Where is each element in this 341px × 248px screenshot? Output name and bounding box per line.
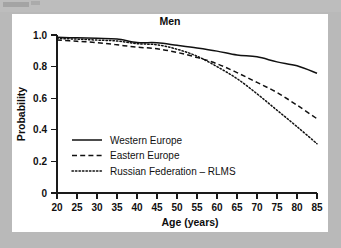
- legend-label: Eastern Europe: [110, 150, 180, 161]
- line-chart: Men 00.20.40.60.81.0 Probability 2025303…: [12, 14, 328, 232]
- x-tick-label: 30: [91, 202, 103, 213]
- x-tick-label: 55: [191, 202, 203, 213]
- x-tick-label: 80: [291, 202, 303, 213]
- x-tick-labels: 2025303540455055606570758085: [51, 202, 323, 213]
- x-axis: 2025303540455055606570758085 Age (years): [51, 193, 323, 228]
- x-tick-label: 20: [51, 202, 63, 213]
- chart-panel: Men 00.20.40.60.81.0 Probability 2025303…: [12, 14, 328, 232]
- y-tick-label: 0: [41, 188, 47, 199]
- x-axis-title: Age (years): [161, 216, 218, 228]
- data-series-group: [57, 37, 317, 143]
- legend-label: Russian Federation – RLMS: [110, 166, 236, 177]
- scan-speck: [31, 1, 40, 5]
- x-tick-label: 70: [251, 202, 263, 213]
- x-tick-label: 25: [71, 202, 83, 213]
- x-tick-marks: [57, 193, 317, 199]
- y-axis-title: Probability: [15, 87, 27, 141]
- scan-speck: [3, 2, 29, 7]
- chart-legend: Western EuropeEastern EuropeRussian Fede…: [72, 135, 236, 177]
- figure-root: Men 00.20.40.60.81.0 Probability 2025303…: [0, 0, 341, 248]
- y-tick-label: 0.8: [33, 61, 47, 72]
- chart-title: Men: [160, 15, 181, 27]
- y-tick-marks: [51, 35, 57, 193]
- x-tick-label: 65: [231, 202, 243, 213]
- series-line-dotted: [57, 38, 317, 143]
- x-tick-label: 75: [271, 202, 283, 213]
- y-tick-label: 1.0: [33, 30, 47, 41]
- y-tick-label: 0.6: [33, 93, 47, 104]
- x-tick-label: 50: [171, 202, 183, 213]
- x-tick-label: 35: [111, 202, 123, 213]
- legend-label: Western Europe: [110, 135, 183, 146]
- x-tick-label: 45: [151, 202, 163, 213]
- y-tick-label: 0.2: [33, 156, 47, 167]
- y-tick-label: 0.4: [33, 124, 47, 135]
- x-tick-label: 85: [311, 202, 323, 213]
- x-tick-label: 60: [211, 202, 223, 213]
- series-line-solid: [57, 37, 317, 73]
- scan-artifact-band: [0, 0, 341, 12]
- y-tick-labels: 00.20.40.60.81.0: [33, 30, 47, 199]
- y-axis: 00.20.40.60.81.0 Probability: [15, 30, 57, 199]
- x-tick-label: 40: [131, 202, 143, 213]
